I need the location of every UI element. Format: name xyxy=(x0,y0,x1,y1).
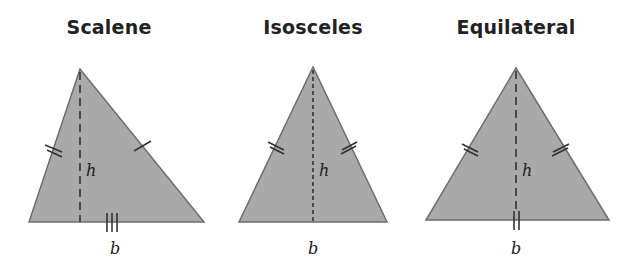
isosceles-triangle-figure: h b xyxy=(239,67,387,258)
equilateral-triangle xyxy=(426,68,609,220)
scalene-triangle-figure: h b xyxy=(29,69,204,258)
scalene-triangle xyxy=(29,69,204,222)
equilateral-base-label: b xyxy=(511,239,521,258)
isosceles-height-label: h xyxy=(319,161,329,180)
isosceles-base-label: b xyxy=(308,239,318,258)
scalene-height-label: h xyxy=(86,161,96,180)
equilateral-height-label: h xyxy=(522,161,532,180)
triangle-types-diagram: h b h b h b xyxy=(0,0,639,267)
scalene-base-label: b xyxy=(110,239,120,258)
equilateral-triangle-figure: h b xyxy=(426,68,609,258)
